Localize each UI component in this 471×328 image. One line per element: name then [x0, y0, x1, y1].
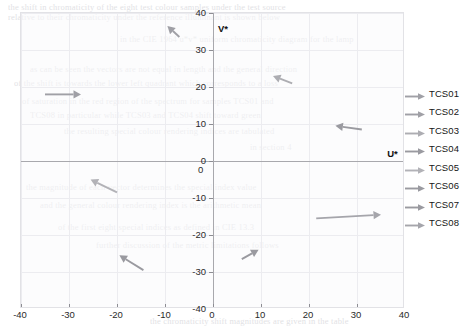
legend-label: TCS07	[429, 199, 459, 210]
legend-item-tcs02[interactable]: TCS02	[404, 103, 471, 122]
tick-label-x: -40	[13, 309, 27, 320]
legend-item-tcs04[interactable]: TCS04	[404, 140, 471, 159]
legend-label: TCS08	[429, 217, 459, 228]
shift-vector-arrow	[242, 250, 259, 259]
tick-label-x: -20	[109, 309, 123, 320]
legend-label: TCS06	[429, 180, 459, 191]
shift-vector-arrow	[119, 255, 143, 270]
legend: TCS01TCS02TCS03TCS04TCS05TCS06TCS07TCS08	[404, 84, 471, 232]
legend-label: TCS02	[429, 106, 459, 117]
tick-label-y: -30	[192, 266, 206, 277]
legend-item-tcs05[interactable]: TCS05	[404, 158, 471, 177]
shift-vector-arrow	[167, 26, 179, 37]
plot-panel	[20, 12, 404, 308]
vector-shaft	[126, 259, 144, 270]
tick-label-x: 20	[303, 309, 314, 320]
arrow-right-icon	[404, 143, 426, 154]
vector-shaft	[343, 127, 362, 130]
legend-item-tcs07[interactable]: TCS07	[404, 195, 471, 214]
vector-arrowhead	[335, 123, 343, 131]
tick-label-y: -20	[192, 229, 206, 240]
arrow-right-icon	[404, 106, 426, 117]
vector-shaft	[242, 253, 252, 259]
tick-label-x: 30	[351, 309, 362, 320]
tick-label-x: -30	[61, 309, 75, 320]
legend-label: TCS04	[429, 143, 459, 154]
chromaticity-shift-figure: -40-30-20-10010203040-40-30-20-100102030…	[0, 0, 471, 328]
tick-label-y: 30	[195, 44, 206, 55]
vector-layer	[21, 13, 404, 308]
arrow-right-icon	[404, 180, 426, 191]
legend-item-tcs08[interactable]: TCS08	[404, 214, 471, 233]
arrow-right-icon	[404, 217, 426, 228]
tick-label-x: 10	[255, 309, 266, 320]
legend-item-tcs06[interactable]: TCS06	[404, 177, 471, 196]
tick-label-y: 40	[195, 7, 206, 18]
vector-arrowhead	[373, 211, 381, 219]
arrow-right-icon	[404, 88, 426, 99]
legend-label: TCS05	[429, 162, 459, 173]
shift-vector-arrow	[316, 211, 381, 219]
arrow-right-icon	[404, 125, 426, 136]
shift-vector-arrow	[335, 123, 361, 131]
vector-shaft	[97, 183, 117, 193]
tick-label-x: 0	[209, 309, 214, 320]
tick-label-y: -40	[192, 303, 206, 314]
arrow-right-icon	[404, 162, 426, 173]
legend-item-tcs01[interactable]: TCS01	[404, 84, 471, 103]
legend-item-tcs03[interactable]: TCS03	[404, 121, 471, 140]
tick-label-y: 20	[195, 81, 206, 92]
origin-x-label: 0	[198, 164, 203, 175]
tick-label-y: -10	[192, 192, 206, 203]
tick-label-x: 40	[399, 309, 410, 320]
vector-arrowhead	[74, 90, 82, 98]
vector-shaft	[280, 79, 292, 84]
vector-shaft	[173, 31, 179, 37]
y-axis-title: V*	[218, 23, 228, 34]
x-axis-title: U*	[387, 148, 398, 159]
vector-shaft	[316, 215, 373, 218]
shift-vector-arrow	[45, 90, 81, 98]
shift-vector-arrow	[91, 179, 117, 192]
arrow-right-icon	[404, 199, 426, 210]
legend-label: TCS03	[429, 125, 459, 136]
tick-label-y: 10	[195, 118, 206, 129]
tick-label-x: -10	[157, 309, 171, 320]
legend-label: TCS01	[429, 88, 459, 99]
shift-vector-arrow	[273, 75, 292, 84]
